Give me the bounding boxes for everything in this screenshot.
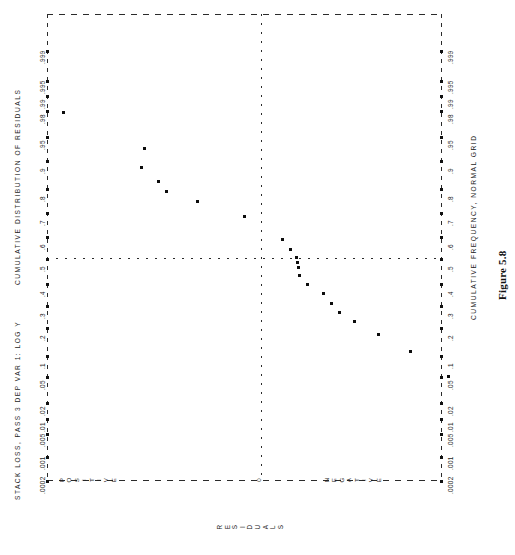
axis-tick-label-left: .4: [39, 291, 46, 297]
axis-tick-label-left: .3: [39, 313, 46, 319]
axis-tick-label-right: .001: [447, 456, 454, 470]
axis-tick-label-left: .01: [39, 422, 46, 432]
axis-tick-left: [46, 160, 49, 163]
axis-tick-label-right: .5: [447, 266, 454, 272]
axis-tick-label-left: .95: [39, 140, 46, 150]
axis-tick-left: [46, 283, 49, 286]
axis-tick-label-left: .7: [39, 220, 46, 226]
data-point: [140, 166, 143, 169]
axis-tick-label-right: .7: [447, 220, 454, 226]
category-label-char: O: [67, 478, 73, 483]
axis-tick-label-right: .999: [447, 50, 454, 64]
axis-tick-label-left: .999: [39, 50, 46, 64]
plot-border-right: [441, 14, 442, 480]
zero-residual-reference-line: [261, 14, 262, 480]
plot-border-left: [47, 14, 48, 480]
axis-tick-right: [440, 80, 443, 83]
axis-tick-left: [46, 95, 49, 98]
axis-tick-label-left: .02: [39, 406, 46, 416]
median-reference-line: [47, 258, 442, 259]
axis-tick-right: [440, 258, 443, 261]
axis-tick-right: [440, 136, 443, 139]
data-point: [196, 200, 199, 203]
axis-tick-label-right: .9: [447, 168, 454, 174]
axis-tick-left: [46, 327, 49, 330]
axis-tick-right: [440, 110, 443, 113]
category-label-negative: NEGATIVE: [325, 477, 382, 483]
axis-tick-left: [46, 136, 49, 139]
axis-tick-right: [440, 50, 443, 53]
category-label-char: 0: [256, 478, 262, 483]
data-point: [295, 256, 298, 259]
axis-tick-label-right: .6: [447, 244, 454, 250]
axis-tick-left: [46, 418, 49, 421]
residuals-label-char: U: [255, 525, 261, 530]
plot-area: .0002.001.005.01.02.05.1.2.3.4.5.6.7.8.9…: [47, 14, 442, 480]
data-point: [338, 311, 341, 314]
axis-tick-label-left: .005: [39, 433, 46, 447]
axis-tick-left: [46, 433, 49, 436]
axis-tick-label-left: .995: [39, 80, 46, 94]
axis-tick-right: [440, 95, 443, 98]
data-point: [330, 302, 333, 305]
axis-tick-right: [440, 305, 443, 308]
axis-tick-right: [440, 212, 443, 215]
axis-tick-right: [440, 433, 443, 436]
category-label-char: E: [376, 478, 382, 483]
axis-tick-label-left: .1: [39, 363, 46, 369]
figure-caption: Figure 5.8: [496, 251, 508, 300]
axis-tick-label-right: .95: [447, 140, 454, 150]
axis-tick-left: [46, 236, 49, 239]
data-point: [165, 190, 168, 193]
axis-tick-label-right: .05: [447, 380, 454, 390]
data-point: [289, 248, 292, 251]
axis-tick-right: [440, 376, 443, 379]
left-axis-title: CUMULATIVE DISTRIBUTION OF RESIDUALS: [14, 89, 21, 285]
axis-tick-left: [46, 80, 49, 83]
axis-tick-label-left: .2: [39, 335, 46, 341]
axis-tick-label-right: .1: [447, 363, 454, 369]
axis-tick-label-right: .01: [447, 422, 454, 432]
data-point: [353, 320, 356, 323]
axis-tick-right: [440, 418, 443, 421]
axis-tick-label-left: .5: [39, 266, 46, 272]
right-axis-title: CUMULATIVE FREQUENCY, NORMAL GRID: [470, 135, 477, 320]
category-label-char: V: [104, 478, 110, 483]
axis-tick-left: [46, 188, 49, 191]
axis-tick-left: [46, 376, 49, 379]
axis-tick-left: [46, 305, 49, 308]
axis-tick-right: [440, 160, 443, 163]
axis-tick-right: [440, 327, 443, 330]
axis-tick-left: [46, 456, 49, 459]
data-point: [296, 261, 299, 264]
axis-tick-right: [440, 283, 443, 286]
axis-tick-left: [46, 402, 49, 405]
axis-tick-label-left: .8: [39, 196, 46, 202]
residuals-label-char: L: [270, 525, 276, 530]
axis-tick-left: [46, 110, 49, 113]
residuals-label-char: A: [263, 525, 269, 530]
residuals-axis-label: RESIDUALS: [218, 524, 284, 530]
axis-tick-label-left: .001: [39, 456, 46, 470]
axis-tick-label-right: .4: [447, 291, 454, 297]
axis-tick-label-right: .995: [447, 80, 454, 94]
residuals-label-char: D: [248, 525, 254, 530]
axis-tick-label-right: .8: [447, 196, 454, 202]
plot-border-top: [47, 14, 442, 15]
category-label-char: E: [332, 478, 338, 483]
category-label-char: T: [354, 478, 360, 483]
axis-tick-label-left: .99: [39, 99, 46, 109]
axis-tick-label-right: .0002: [447, 477, 454, 495]
axis-tick-right: [440, 402, 443, 405]
data-point: [298, 274, 301, 277]
axis-tick-right: [440, 236, 443, 239]
data-point: [306, 283, 309, 286]
chart-header-title: STACK LOSS, PASS 3 DEP VAR 1: LOG Y: [14, 321, 21, 500]
axis-tick-label-left: .9: [39, 168, 46, 174]
data-point: [377, 333, 380, 336]
data-point: [157, 180, 160, 183]
category-label-char: V: [369, 478, 375, 483]
category-label-char: I: [82, 478, 88, 483]
data-point: [62, 111, 65, 114]
axis-tick-right: [440, 456, 443, 459]
